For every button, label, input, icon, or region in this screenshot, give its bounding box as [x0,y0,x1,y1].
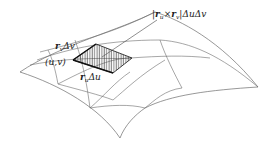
area-leader-line [102,20,157,57]
rv-delta-v-label: rvΔv [55,41,75,52]
area-element-label: |ru×rv|ΔuΔv [152,9,206,20]
surface-diagram: |ru×rv|ΔuΔv rvΔv (u,v) ruΔu [0,0,273,154]
surface-outline [20,12,258,138]
area-element-patch [73,44,132,73]
point-uv-label: (u,v) [45,57,66,67]
ru-delta-u-label: ruΔu [80,72,101,83]
